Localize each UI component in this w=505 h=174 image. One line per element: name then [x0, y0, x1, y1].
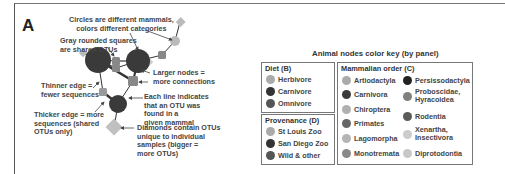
- order-diprotodontia-label: Diprotodontia: [415, 150, 462, 158]
- annotation-thicker-edge: Thicker edge = more sequences (shared OT…: [34, 111, 104, 137]
- diet-omnivore-label: Omnivore: [278, 100, 312, 108]
- diet-herbivore-label: Herbivore: [278, 76, 312, 84]
- rodentia-swatch: [403, 112, 412, 121]
- provenance-st-louis-label: St Louis Zoo: [278, 128, 322, 136]
- proboscidae-swatch: [403, 92, 412, 101]
- annotation-line: are shared OTUs: [60, 46, 137, 55]
- san-diego-swatch: [266, 139, 275, 148]
- label-line: Insectivora: [415, 134, 453, 142]
- provenance-wild-label: Wild & other: [278, 152, 320, 160]
- order-carnivora-label: Carnivora: [354, 91, 388, 99]
- color-key-title: Animal nodes color key (by panel): [312, 49, 439, 58]
- annotation-each-line: Each line indicates that an OTU was foun…: [144, 93, 209, 127]
- provenance-key-title: Provenance (D): [265, 116, 319, 125]
- diet-carnivore-label: Carnivore: [278, 88, 312, 96]
- order-persissodactyla-label: Persissodactyla: [415, 77, 470, 85]
- monotremata-swatch: [342, 149, 351, 158]
- order-proboscidae-label: Proboscidae, Hyracoidea: [415, 88, 460, 104]
- provenance-key-box: Provenance (D) St Louis Zoo San Diego Zo…: [261, 114, 335, 165]
- artiodactyla-swatch: [342, 76, 351, 85]
- carnivora-swatch: [342, 90, 351, 99]
- annotation-line: colors different categories: [69, 25, 174, 34]
- lagomorpha-swatch: [342, 134, 351, 143]
- order-lagomorpha-label: Lagomorpha: [354, 135, 398, 143]
- annotation-circles: Circles are different mammals, colors di…: [69, 16, 174, 33]
- st-louis-swatch: [266, 127, 275, 136]
- omnivore-swatch: [266, 99, 275, 108]
- order-xenartha-label: Xenartha, Insectivora: [415, 126, 453, 142]
- carnivore-swatch: [266, 87, 275, 96]
- annotation-line: OTUs only): [34, 128, 104, 137]
- diet-key-box: Diet (B) Herbivore Carnivore Omnivore: [261, 62, 335, 113]
- annotation-line: fewer sequences: [41, 91, 99, 100]
- primates-swatch: [342, 119, 351, 128]
- order-monotremata-label: Monotremata: [354, 150, 399, 158]
- annotation-larger-nodes: Larger nodes = more connections: [153, 69, 215, 86]
- order-artiodactyla-label: Artiodactyla: [354, 77, 396, 85]
- wild-swatch: [266, 151, 275, 160]
- xenartha-swatch: [403, 130, 412, 139]
- order-key-box: Mammalian order (C) Artiodactyla Carnivo…: [337, 62, 473, 165]
- persissodactyla-swatch: [403, 76, 412, 85]
- order-primates-label: Primates: [354, 120, 384, 128]
- annotation-thinner-edge: Thinner edge = fewer sequences: [41, 82, 99, 99]
- order-rodentia-label: Rodentia: [415, 113, 446, 121]
- order-key-title: Mammalian order (C): [341, 64, 415, 73]
- diet-key-title: Diet (B): [265, 64, 291, 73]
- chiroptera-swatch: [342, 105, 351, 114]
- annotation-line: more OTUs): [137, 150, 220, 159]
- annotation-squares: Gray rounded squares are shared OTUs: [60, 37, 137, 54]
- herbivore-swatch: [266, 75, 275, 84]
- provenance-san-diego-label: San Diego Zoo: [278, 140, 328, 148]
- annotation-line: more connections: [153, 78, 215, 87]
- annotation-diamonds: Diamonds contain OTUs unique to individu…: [137, 124, 220, 158]
- label-line: Hyracoidea: [415, 96, 460, 104]
- order-chiroptera-label: Chiroptera: [354, 106, 390, 114]
- diprotodontia-swatch: [403, 149, 412, 158]
